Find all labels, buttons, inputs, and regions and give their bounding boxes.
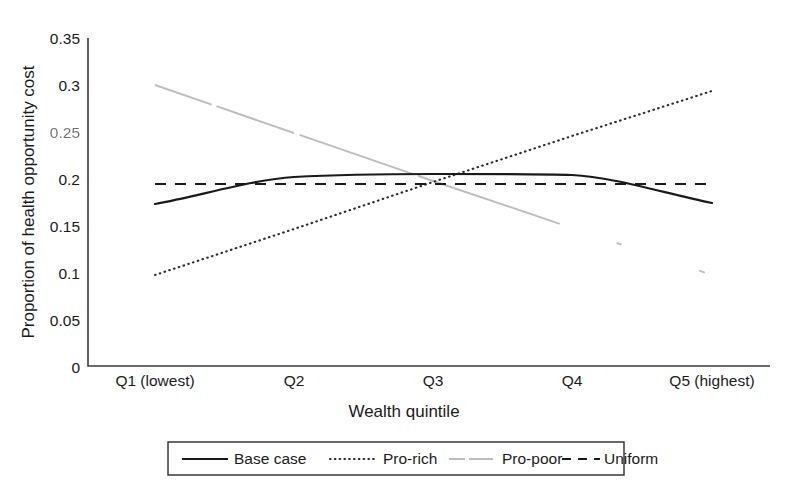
legend-label-pro-poor: Pro-poor bbox=[502, 450, 562, 467]
x-axis-title: Wealth quintile bbox=[348, 402, 459, 421]
legend-label-base-case: Base case bbox=[234, 450, 306, 467]
x-tick-label-q2: Q2 bbox=[284, 372, 305, 389]
y-tick-label-0.2: 0.2 bbox=[58, 171, 80, 188]
y-axis-title: Proportion of health opportunity cost bbox=[19, 65, 38, 338]
line-chart-figure: Proportion of health opportunity cost 0.… bbox=[0, 0, 789, 489]
y-tick-label-0.1: 0.1 bbox=[58, 265, 80, 282]
x-tick-label-q3: Q3 bbox=[423, 372, 444, 389]
x-tick-label-q1: Q1 (lowest) bbox=[115, 372, 194, 389]
y-tick-label-0.05: 0.05 bbox=[50, 312, 80, 329]
legend-label-uniform: Uniform bbox=[604, 450, 658, 467]
y-tick-label-0: 0 bbox=[71, 359, 80, 376]
legend-label-pro-rich: Pro-rich bbox=[383, 450, 437, 467]
y-tick-label-0.3: 0.3 bbox=[58, 77, 80, 94]
x-tick-label-q5: Q5 (highest) bbox=[669, 372, 754, 389]
y-tick-label-0.15: 0.15 bbox=[50, 218, 80, 235]
chart-legend: Base case Pro-rich Pro-poor Uniform bbox=[168, 442, 658, 475]
x-tick-label-q4: Q4 bbox=[562, 372, 583, 389]
y-tick-label-0.25: 0.25 bbox=[50, 124, 80, 141]
y-tick-label-0.35: 0.35 bbox=[50, 30, 80, 47]
